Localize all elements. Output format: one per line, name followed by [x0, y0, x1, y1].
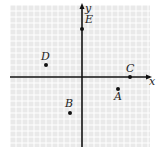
coordinate-plane: x y ABCDE: [0, 0, 158, 150]
point-c-marker: [128, 75, 132, 79]
point-e-marker: [80, 27, 84, 31]
point-a-label: A: [113, 90, 122, 103]
point-b-label: B: [64, 97, 73, 110]
point-e-label: E: [84, 13, 93, 26]
point-d-label: D: [40, 50, 50, 63]
point-b-marker: [68, 111, 72, 115]
point-d-marker: [44, 63, 48, 67]
point-c-label: C: [126, 62, 135, 75]
x-axis-label: x: [149, 75, 156, 88]
